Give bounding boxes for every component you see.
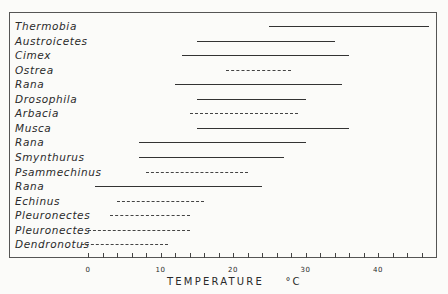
x-tick [161,253,162,258]
species-label: Rana [15,180,44,192]
x-tick-label: 30 [301,266,311,274]
x-tick [132,253,133,258]
temperature-range-bar [139,157,284,158]
temperature-range-bar [226,70,291,71]
x-tick [277,253,278,258]
x-tick [320,253,321,258]
temperature-range-bar [95,186,262,187]
x-tick [306,253,307,258]
temperature-range-bar [190,113,299,114]
x-tick [146,253,147,258]
temperature-range-bar [110,215,190,216]
x-tick [103,253,104,258]
x-tick [422,253,423,258]
species-label: Thermobia [15,20,77,32]
temperature-range-bar [182,55,349,56]
x-axis-title: TEMPERATURE [167,276,264,287]
species-label: Rana [15,78,44,90]
x-tick [262,253,263,258]
x-tick [204,253,205,258]
species-label: Musca [15,122,51,134]
temperature-range-bar [269,26,429,27]
temperature-range-bar [197,99,306,100]
species-label: Smynthurus [15,151,85,163]
species-label: Ostrea [15,64,54,76]
species-label: Cimex [15,49,51,61]
x-tick-label: 40 [373,266,383,274]
temperature-range-bar [197,128,349,129]
x-tick-label: 0 [86,266,91,274]
species-label: Drosophila [15,93,77,105]
temperature-range-bar [146,172,248,173]
species-label: Arbacia [15,107,59,119]
x-tick-label: 20 [228,266,238,274]
species-label: Austroicetes [15,35,88,47]
x-tick [335,253,336,258]
temperature-range-bar [175,84,342,85]
species-label: Rana [15,136,44,148]
x-tick [219,253,220,258]
temperature-range-bar [81,244,168,245]
x-tick [88,253,89,258]
x-tick [393,253,394,258]
x-tick-label: 10 [156,266,166,274]
species-label: Pleuronectes [15,224,90,236]
x-tick [190,253,191,258]
x-tick [349,253,350,258]
temperature-range-bar [197,41,335,42]
temperature-range-bar [117,201,204,202]
x-tick [233,253,234,258]
temperature-range-bar [88,230,190,231]
x-tick [175,253,176,258]
x-tick [378,253,379,258]
temperature-range-bar [139,142,306,143]
x-tick [248,253,249,258]
x-tick [407,253,408,258]
x-axis-unit: °C [285,276,301,287]
species-label: Dendronotus [15,238,90,250]
species-label: Psammechinus [15,166,101,178]
x-axis-label: TEMPERATURE °C [167,276,302,287]
species-label: Echinus [15,195,60,207]
x-tick [117,253,118,258]
species-label: Pleuronectes [15,209,90,221]
x-tick [291,253,292,258]
x-tick [364,253,365,258]
